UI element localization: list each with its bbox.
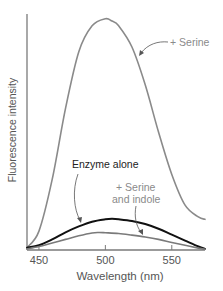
annotation-serine-indole-line2: and indole: [112, 193, 161, 205]
annotation-arrow-serine-indole: [135, 206, 141, 232]
x-tick-label-500: 500: [96, 254, 114, 266]
annotation-serine: + Serine: [170, 36, 210, 48]
fluorescence-chart: 450500550 Fluorescence intensity Wavelen…: [0, 0, 223, 291]
curve-serine-indole: [27, 233, 205, 250]
curve-serine: [27, 19, 205, 248]
arrowhead-indole-icon: [138, 229, 143, 235]
x-tick-label-450: 450: [30, 254, 48, 266]
annotation-arrow-enzyme-alone: [74, 174, 80, 220]
annotation-enzyme-alone: Enzyme alone: [72, 158, 139, 170]
arrowhead-enzyme-icon: [77, 217, 82, 223]
y-axis-label: Fluorescence intensity: [6, 77, 18, 182]
x-axis-label: Wavelength (nm): [76, 270, 163, 282]
annotation-arrow-serine: [141, 42, 168, 53]
x-tick-label-550: 550: [163, 254, 181, 266]
annotation-serine-indole-line1: + Serine: [116, 181, 156, 193]
